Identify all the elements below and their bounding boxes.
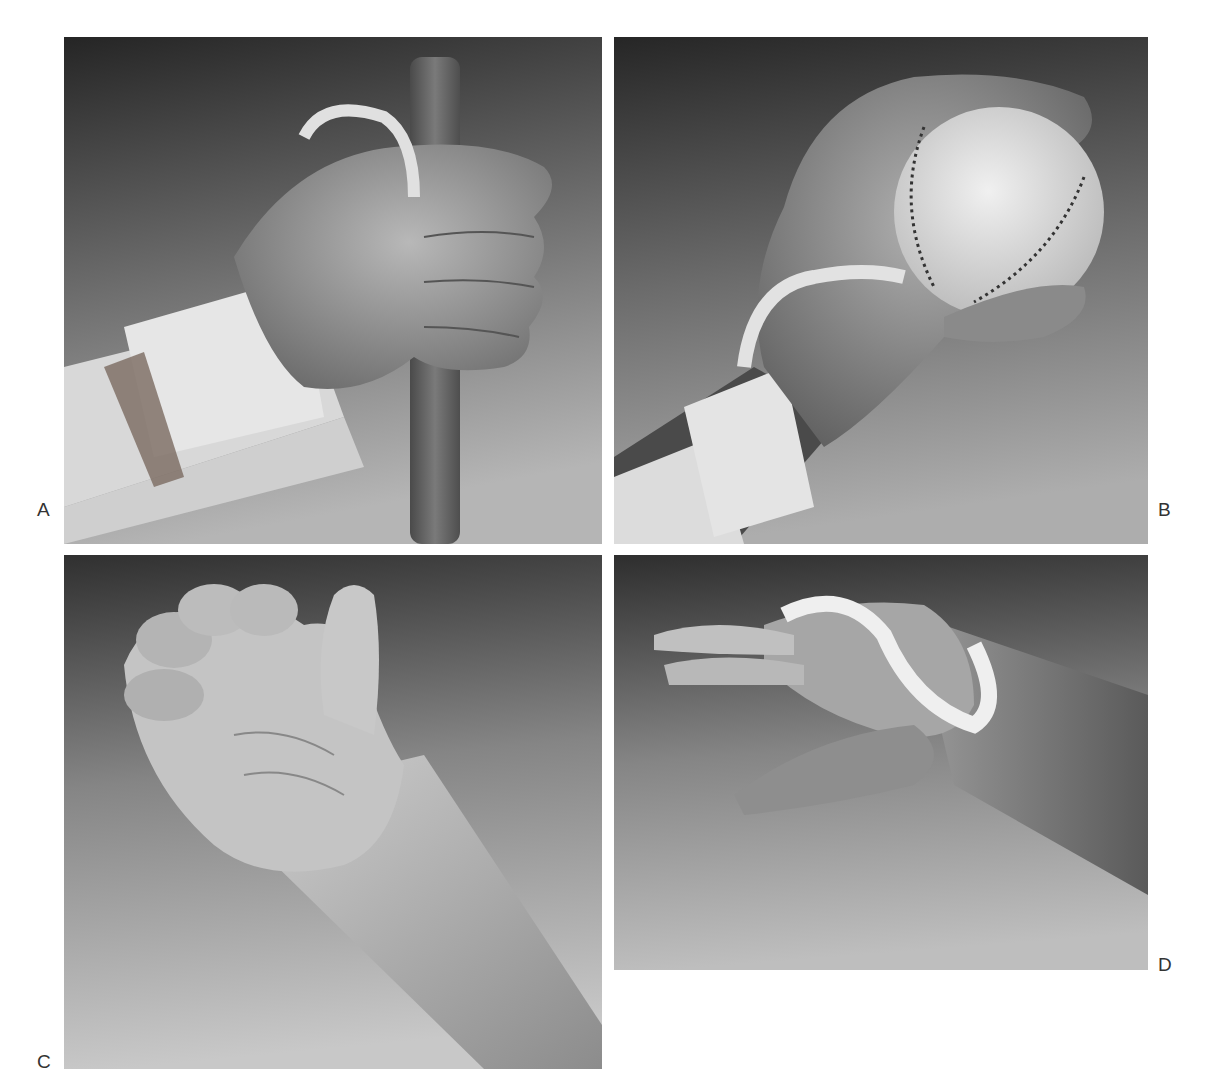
photo-panel-b [614,37,1148,544]
photo-panel-d [614,555,1148,970]
photo-panel-c [64,555,602,1069]
photo-panel-a [64,37,602,544]
panel-label-d: D [1158,955,1172,974]
hand-finger-strap-image [614,555,1148,970]
panel-label-b: B [1158,500,1171,519]
hand-holding-baseball-image [614,37,1148,544]
hand-grip-dowel-image [64,37,602,544]
panel-label-c: C [37,1052,51,1071]
panel-label-a: A [37,500,50,519]
hand-hook-fist-image [64,555,602,1069]
